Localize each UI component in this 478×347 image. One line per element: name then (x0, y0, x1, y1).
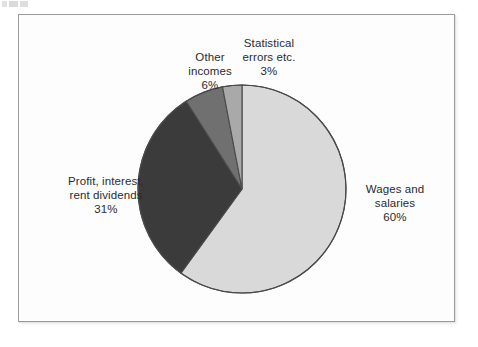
pie-label-wages-line2: salaries (349, 196, 441, 210)
pie-label-wages-line1: Wages and (349, 182, 441, 196)
pie-label-statistical-errors-line2: errors etc. (215, 50, 323, 64)
pie-label-statistical-errors: Statistical errors etc. 3% (215, 36, 323, 78)
scan-edge-artifact (2, 1, 28, 7)
chart-frame: Wages and salaries 60% Profit, interest,… (18, 14, 455, 322)
pie-label-other-incomes-percent: 6% (174, 78, 246, 92)
pie-label-profit-line1: Profit, interest, (41, 174, 171, 188)
pie-label-profit-line2: rent dividends (41, 188, 171, 202)
pie-chart-plot-area: Wages and salaries 60% Profit, interest,… (19, 15, 454, 321)
pie-label-profit-percent: 31% (41, 202, 171, 216)
pie-label-wages-percent: 60% (349, 210, 441, 224)
pie-label-profit: Profit, interest, rent dividends 31% (41, 174, 171, 216)
pie-label-wages: Wages and salaries 60% (349, 182, 441, 224)
pie-label-statistical-errors-percent: 3% (215, 64, 323, 78)
pie-label-statistical-errors-line1: Statistical (215, 36, 323, 50)
